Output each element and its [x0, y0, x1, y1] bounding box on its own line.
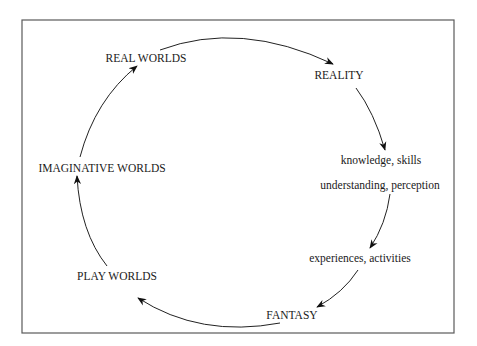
- arrow-fantasy-to-play-worlds: [138, 298, 280, 327]
- diagram-frame: [22, 20, 454, 333]
- arrow-experiences-to-fantasy: [317, 270, 358, 307]
- arrow-reality-to-knowledge: [356, 88, 385, 150]
- node-play-worlds: PLAY WORLDS: [77, 270, 157, 282]
- cycle-diagram: REAL WORLDS REALITY knowledge, skills un…: [0, 0, 477, 346]
- node-reality: REALITY: [314, 69, 364, 81]
- node-knowledge-skills: knowledge, skills: [341, 154, 422, 167]
- node-experiences-activities: experiences, activities: [309, 252, 411, 265]
- node-fantasy: FANTASY: [266, 309, 318, 321]
- arrow-understanding-to-experiences: [370, 194, 390, 248]
- arrow-imaginative-worlds-to-real-worlds: [80, 66, 137, 157]
- node-understanding-perception: understanding, perception: [320, 179, 440, 192]
- node-real-worlds: REAL WORLDS: [106, 52, 187, 64]
- node-imaginative-worlds: IMAGINATIVE WORLDS: [38, 162, 165, 174]
- arrow-play-worlds-to-imaginative-worlds: [77, 176, 107, 266]
